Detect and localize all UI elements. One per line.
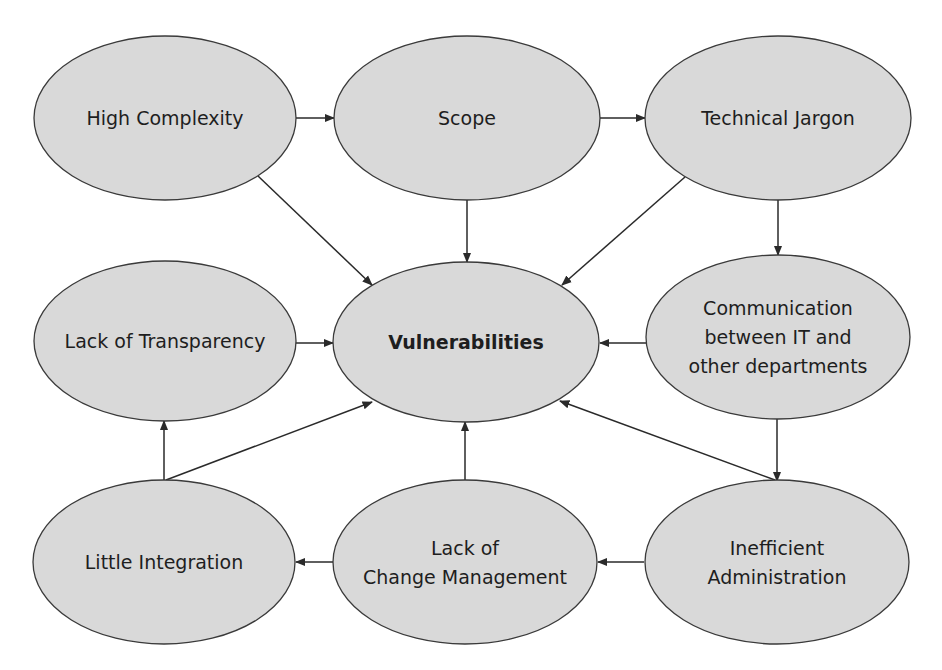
vulnerabilities-diagram: High ComplexityScopeTechnical JargonLack… (0, 0, 942, 670)
node-inefficient-administration: InefficientAdministration (645, 480, 909, 644)
node-little-integration: Little Integration (33, 480, 295, 644)
node-label-communication-line-1: Communication (703, 297, 853, 319)
node-label-lack-of-transparency: Lack of Transparency (65, 330, 266, 352)
node-ellipse-inefficient-administration (645, 480, 909, 644)
node-label-little-integration: Little Integration (85, 551, 243, 573)
arrow-technical-jargon-to-vulnerabilities (562, 177, 685, 285)
node-label-high-complexity: High Complexity (86, 107, 243, 129)
node-ellipse-lack-of-change-management (333, 480, 597, 644)
node-scope: Scope (334, 36, 600, 200)
node-technical-jargon: Technical Jargon (645, 36, 911, 200)
node-label-scope: Scope (438, 107, 496, 129)
node-label-lack-of-change-management-line-1: Lack of (431, 537, 500, 559)
node-lack-of-transparency: Lack of Transparency (34, 261, 296, 421)
arrow-high-complexity-to-vulnerabilities (258, 176, 372, 285)
node-label-inefficient-administration-line-2: Administration (707, 566, 846, 588)
node-lack-of-change-management: Lack ofChange Management (333, 480, 597, 644)
nodes-layer: High ComplexityScopeTechnical JargonLack… (33, 36, 911, 644)
node-communication: Communicationbetween IT andother departm… (646, 255, 910, 419)
node-label-lack-of-change-management-line-2: Change Management (363, 566, 567, 588)
node-label-technical-jargon: Technical Jargon (700, 107, 855, 129)
node-label-communication-line-2: between IT and (704, 326, 851, 348)
node-vulnerabilities: Vulnerabilities (333, 262, 599, 422)
node-label-communication-line-3: other departments (689, 355, 868, 377)
node-high-complexity: High Complexity (34, 36, 296, 200)
node-label-vulnerabilities: Vulnerabilities (388, 331, 544, 353)
node-label-inefficient-administration-line-1: Inefficient (730, 537, 825, 559)
